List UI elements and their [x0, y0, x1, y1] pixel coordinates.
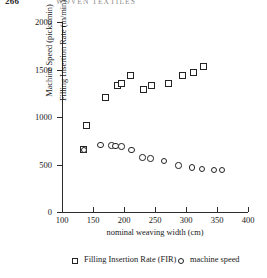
y-tick-label: 500 — [12, 160, 52, 170]
y-tick — [57, 212, 62, 213]
data-point-fir — [127, 72, 134, 79]
data-point-machine-speed — [97, 142, 103, 148]
y-axis-title-speed: Machine Speed (picks/min) — [45, 0, 54, 146]
data-point-fir — [118, 80, 125, 87]
x-tick-label: 300 — [169, 215, 203, 225]
x-tick-label: 150 — [76, 215, 110, 225]
x-tick-label: 100 — [45, 215, 79, 225]
x-axis-line — [62, 212, 248, 213]
data-point-fir — [83, 122, 90, 129]
data-point-machine-speed — [199, 166, 205, 172]
data-point-fir — [102, 94, 109, 101]
data-point-machine-speed — [189, 164, 195, 170]
data-point-fir — [179, 72, 186, 79]
x-tick-label: 350 — [200, 215, 234, 225]
page-number: 266 — [5, 0, 19, 6]
data-point-machine-speed — [175, 162, 181, 168]
x-tick-label: 200 — [107, 215, 141, 225]
data-point-fir — [190, 69, 197, 76]
plot-area — [62, 22, 248, 212]
legend-label-machine-speed: machine speed — [190, 255, 240, 264]
running-head: 266 WOVEN TEXTILES — [0, 0, 267, 7]
data-point-machine-speed — [118, 143, 124, 149]
data-point-machine-speed — [81, 147, 87, 153]
x-axis-title: nominal weaving width (cm) — [40, 228, 267, 237]
chart-page: 266 WOVEN TEXTILES 0500100015002000 1001… — [0, 0, 267, 278]
legend-square-icon — [72, 258, 78, 264]
data-point-fir — [200, 63, 207, 70]
data-point-fir — [148, 82, 155, 89]
data-point-machine-speed — [128, 147, 134, 153]
data-point-machine-speed — [211, 167, 217, 173]
legend-circle-icon — [178, 258, 184, 264]
chart-legend: Filling Insertion Rate (FIR) machine spe… — [0, 255, 267, 271]
data-point-machine-speed — [139, 154, 145, 160]
x-tick — [248, 207, 249, 212]
running-head-title: WOVEN TEXTILES — [56, 0, 136, 6]
data-point-fir — [140, 86, 147, 93]
legend-label-fir: Filling Insertion Rate (FIR) — [84, 255, 176, 264]
data-point-machine-speed — [147, 155, 153, 161]
data-point-machine-speed — [219, 167, 225, 173]
data-point-fir — [165, 80, 172, 87]
data-point-machine-speed — [161, 158, 167, 164]
x-tick-label: 250 — [138, 215, 172, 225]
x-tick-label: 400 — [231, 215, 265, 225]
